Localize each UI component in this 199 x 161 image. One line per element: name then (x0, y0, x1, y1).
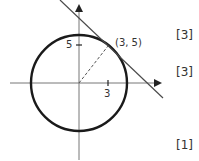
y-axis-arrow-icon (75, 4, 83, 12)
x-axis-arrow-icon (154, 79, 162, 87)
circle-tangent-diagram (0, 0, 199, 161)
radius-dashed-line (79, 46, 108, 83)
marks-label-1: [3] (176, 28, 193, 42)
x-tick-label: 3 (104, 88, 110, 99)
marks-label-3: [1] (176, 138, 193, 152)
y-tick-label: 5 (66, 39, 72, 50)
marks-label-2: [3] (176, 65, 193, 79)
point-label: (3, 5) (115, 37, 142, 48)
